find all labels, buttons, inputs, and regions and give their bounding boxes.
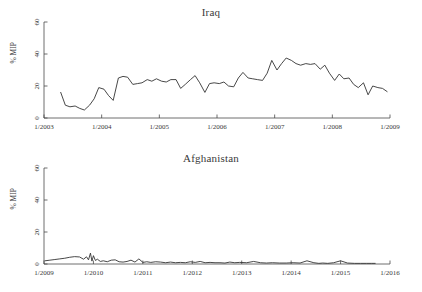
y-tick-label-afghanistan-2: 40	[33, 196, 41, 204]
x-tick-label-afghanistan-1: 1/2010	[84, 269, 104, 277]
chart-panel-iraq: Iraq % MIP 1/20031/20041/20051/20061/200…	[0, 0, 422, 146]
x-tick-label-afghanistan-6: 1/2015	[331, 269, 351, 277]
x-tick-label-iraq-3: 1/2006	[207, 123, 227, 131]
data-series-afghanistan-0	[45, 253, 375, 263]
x-tick-label-iraq-0: 1/2003	[34, 123, 54, 131]
chart-panel-afghanistan: Afghanistan % MIP 1/20091/20101/20111/20…	[0, 146, 422, 292]
x-tick-label-iraq-5: 1/2008	[323, 123, 343, 131]
y-tick-label-iraq-3: 60	[33, 18, 41, 26]
x-tick-label-afghanistan-7: 1/2016	[380, 269, 400, 277]
x-tick-label-afghanistan-0: 1/2009	[34, 269, 54, 277]
figure-root: Iraq % MIP 1/20031/20041/20051/20061/200…	[0, 0, 422, 292]
plot-area-afghanistan: 1/20091/20101/20111/20121/20131/20141/20…	[0, 146, 422, 292]
x-tick-label-iraq-2: 1/2005	[150, 123, 170, 131]
y-tick-label-iraq-0: 0	[33, 116, 41, 120]
plot-area-iraq: 1/20031/20041/20051/20061/20071/20081/20…	[0, 0, 422, 146]
y-tick-label-afghanistan-3: 60	[33, 164, 41, 172]
x-tick-label-iraq-6: 1/2009	[380, 123, 400, 131]
x-tick-label-afghanistan-3: 1/2012	[183, 269, 203, 277]
y-tick-label-iraq-2: 40	[33, 50, 41, 58]
x-tick-label-afghanistan-4: 1/2013	[232, 269, 252, 277]
x-tick-label-iraq-1: 1/2004	[92, 123, 112, 131]
x-tick-label-afghanistan-5: 1/2014	[281, 269, 301, 277]
y-tick-label-iraq-1: 20	[33, 82, 41, 90]
x-tick-label-iraq-4: 1/2007	[265, 123, 285, 131]
x-tick-label-afghanistan-2: 1/2011	[133, 269, 153, 277]
y-tick-label-afghanistan-1: 20	[33, 228, 41, 236]
data-series-iraq-0	[61, 58, 387, 110]
y-tick-label-afghanistan-0: 0	[33, 262, 41, 266]
